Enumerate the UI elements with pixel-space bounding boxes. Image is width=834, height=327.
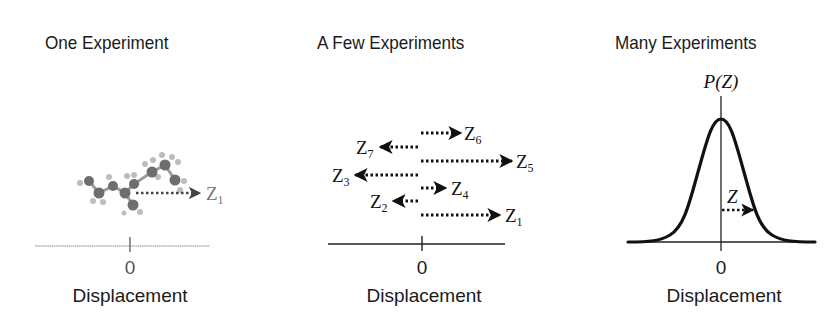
label-z: Z xyxy=(727,186,738,207)
label-z4: Z4 xyxy=(451,178,469,202)
label-z2: Z2 xyxy=(370,191,388,215)
panel1-axis xyxy=(35,237,210,252)
panel2-axis xyxy=(328,236,505,251)
molecule-icon xyxy=(77,152,187,216)
panel1-arrow-z1: Z1 xyxy=(136,183,224,207)
diagram-canvas: Z1 Z6 Z7 Z5 Z3 Z4 Z2 Z1 P(Z) Z xyxy=(0,0,834,327)
label-z6: Z6 xyxy=(464,123,482,147)
arrow-label: Z1 xyxy=(206,183,224,207)
label-z3: Z3 xyxy=(332,165,350,189)
y-axis-label: P(Z) xyxy=(703,71,739,93)
label-z5: Z5 xyxy=(516,151,534,175)
label-z7: Z7 xyxy=(356,137,374,161)
label-z1: Z1 xyxy=(505,205,523,229)
